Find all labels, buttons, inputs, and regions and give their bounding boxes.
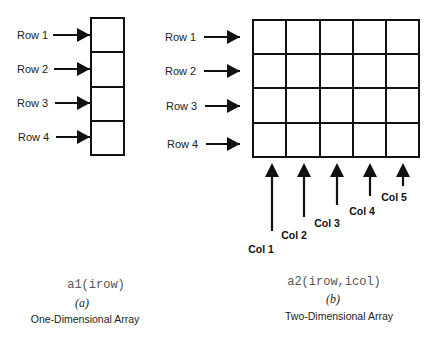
array-1d-tag: (a) xyxy=(75,296,89,310)
arrowhead-icon xyxy=(330,163,344,177)
array-2d-expression: a2(irow,icol) xyxy=(287,275,381,289)
row-label-1: Row 1 xyxy=(17,29,48,41)
arrowhead-icon xyxy=(297,163,311,177)
row-label-3: Row 3 xyxy=(17,97,48,109)
arrowhead-icon xyxy=(227,30,240,44)
array-1d-expression: a1(irow) xyxy=(67,278,125,292)
array-1d-caption: One-Dimensional Array xyxy=(31,313,140,325)
one-dimensional-array: Row 1 Row 2 Row 3 Row 4 a1(irow) (a) One… xyxy=(17,18,140,325)
two-dimensional-array: Row 1 Row 2 Row 3 Row 4 xyxy=(165,20,419,322)
col-label-4: Col 4 xyxy=(349,205,375,217)
array-diagram: Row 1 Row 2 Row 3 Row 4 a1(irow) (a) One… xyxy=(0,0,434,337)
arrowhead-icon xyxy=(363,163,377,177)
array-1d-cells xyxy=(91,18,124,155)
row-label-2: Row 2 xyxy=(17,63,48,75)
arrowhead-icon xyxy=(77,96,90,110)
col-label-1: Col 1 xyxy=(248,243,274,255)
col-label-2: Col 2 xyxy=(281,229,307,241)
row-label-3: Row 3 xyxy=(166,100,197,112)
arrowhead-icon xyxy=(77,130,90,144)
col-label-5: Col 5 xyxy=(381,191,407,203)
row-label-4: Row 4 xyxy=(18,131,49,143)
arrowhead-icon xyxy=(396,163,410,177)
array-2d-tag: (b) xyxy=(326,292,340,306)
array-2d-grid xyxy=(253,20,419,157)
array-2d-caption: Two-Dimensional Array xyxy=(285,310,394,322)
col-label-3: Col 3 xyxy=(314,217,340,229)
row-label-1: Row 1 xyxy=(165,31,196,43)
row-label-4: Row 4 xyxy=(167,138,198,150)
arrowhead-icon xyxy=(227,137,240,151)
arrowhead-icon xyxy=(227,64,240,78)
arrowhead-icon xyxy=(77,28,90,42)
arrowhead-icon xyxy=(77,62,90,76)
arrowhead-icon xyxy=(227,99,240,113)
arrowhead-icon xyxy=(265,163,279,177)
row-label-2: Row 2 xyxy=(165,65,196,77)
